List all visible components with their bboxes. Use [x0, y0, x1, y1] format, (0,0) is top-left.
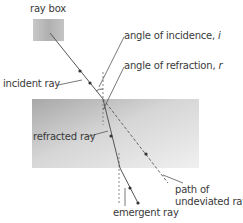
label-angle-of-refraction: angle of refraction, r — [124, 60, 222, 72]
label-angle-of-incidence: angle of incidence, i — [124, 30, 221, 42]
leader-incident — [58, 80, 82, 85]
emergent-ray — [120, 168, 138, 203]
label-emergent-ray: emergent ray — [113, 207, 179, 219]
leader-undeviated — [163, 175, 183, 183]
leader-angle-i — [99, 37, 124, 87]
label-path-of-undeviated-ray-1: path of — [175, 184, 209, 196]
angle-i-arc — [96, 89, 103, 91]
label-refracted-ray: refracted ray — [33, 131, 95, 143]
label-path-of-undeviated-ray-2: undeviated ray — [175, 196, 243, 208]
label-incident-ray: incident ray — [3, 78, 60, 90]
label-ray-box: ray box — [30, 3, 66, 15]
ray-box — [33, 19, 64, 41]
refraction-diagram: ray box incident ray angle of incidence,… — [0, 0, 243, 223]
